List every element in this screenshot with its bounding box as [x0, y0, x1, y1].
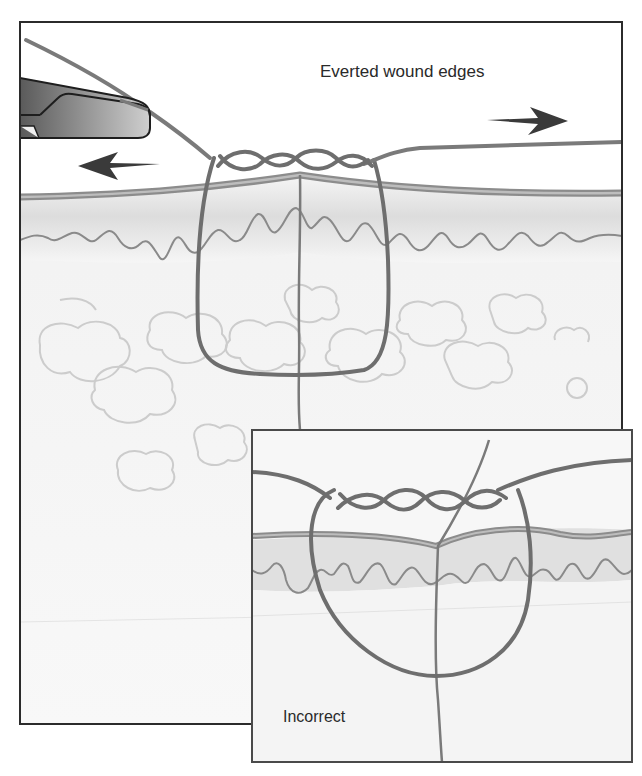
incorrect-label: Incorrect — [283, 708, 345, 726]
everted-wound-edges-label: Everted wound edges — [320, 62, 484, 82]
suture-illustration — [0, 0, 642, 776]
